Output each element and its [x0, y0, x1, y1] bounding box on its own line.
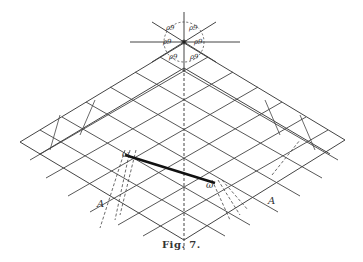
axis-label-left: A — [97, 198, 104, 209]
figure-caption: Fig. 7. — [162, 239, 201, 250]
star-label: ρ9 — [190, 53, 199, 61]
segment-left-label: ω — [122, 149, 129, 159]
star-label: ρ9 — [166, 24, 175, 32]
outer-boundary — [20, 43, 345, 240]
star-label: ρ9 — [194, 38, 203, 46]
star-label: ρ9 — [163, 38, 172, 46]
star-label: ρ9 — [189, 24, 198, 32]
star-label: ρ9 — [169, 53, 178, 61]
diagram-canvas — [0, 0, 363, 262]
dashed-lines — [100, 140, 300, 228]
axis-label-right: A — [268, 195, 275, 206]
star-center — [182, 40, 186, 44]
segment-right-label: ω — [206, 180, 213, 190]
